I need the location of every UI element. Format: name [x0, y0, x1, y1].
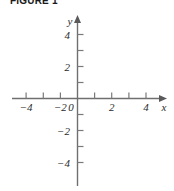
figure-container: FIGURE 1: [0, 0, 174, 191]
x-tick-label-2: 2: [109, 101, 115, 113]
y-tick-label-4: 4: [65, 29, 71, 41]
x-tick-label-neg4: −4: [20, 101, 33, 113]
x-tick-label-neg2: −2: [54, 101, 67, 113]
x-axis-ticks: [26, 93, 146, 99]
y-axis-arrow-icon: [74, 15, 81, 23]
x-axis-label: x: [161, 101, 167, 113]
y-tick-label-2: 2: [65, 61, 71, 73]
origin-label: 0: [68, 101, 74, 113]
y-tick-label-neg2: −2: [57, 125, 70, 137]
y-axis-label: y: [67, 15, 73, 27]
coordinate-plane: −4 −2 0 2 4 4 2 −2 −4 x y: [0, 0, 174, 191]
x-tick-label-4: 4: [143, 101, 149, 113]
y-tick-label-neg4: −4: [57, 157, 70, 169]
